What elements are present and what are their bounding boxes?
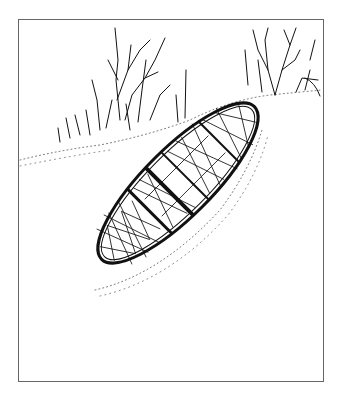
shrub-left <box>58 28 186 142</box>
snowshoe-illustration <box>0 0 344 400</box>
shrub-right <box>245 28 320 96</box>
snowshoe <box>78 83 279 284</box>
snow-slope <box>20 90 322 160</box>
